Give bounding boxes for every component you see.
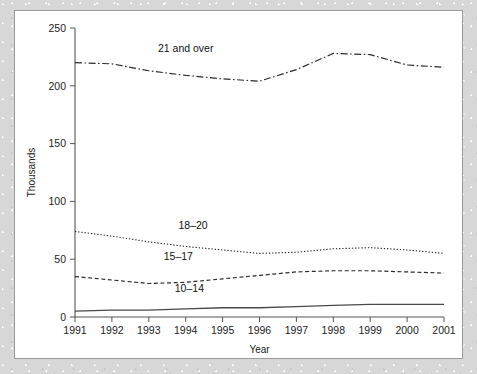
y-axis-ticks: 050100150200250 [48,22,75,323]
x-tick-label: 1999 [359,324,383,336]
series-line-21-and-over [75,53,444,81]
line-chart: 050100150200250 199119921993199419951996… [15,11,464,360]
y-axis-title: Thousands [26,148,37,197]
x-axis-ticks: 1991199219931994199519961997199819992000… [63,317,456,336]
x-tick-label: 1991 [63,324,87,336]
x-tick-label: 1997 [285,324,309,336]
series-label-18-20: 18–20 [178,219,207,231]
x-tick-label: 1993 [137,324,161,336]
series-lines [75,53,444,311]
series-label-10-14: 10–14 [175,282,204,294]
chart-panel: 050100150200250 199119921993199419951996… [14,10,463,359]
series-line-18-20 [75,231,444,253]
y-tick-label: 150 [48,137,66,149]
x-axis-title: Year [249,344,270,355]
x-tick-label: 2000 [395,324,419,336]
series-inline-labels: 21 and over18–2015–1710–14 [158,42,214,293]
series-label-15-17: 15–17 [164,250,193,262]
series-label-21-and-over: 21 and over [158,42,214,54]
x-tick-label: 1998 [322,324,346,336]
y-tick-label: 200 [48,80,66,92]
x-tick-label: 1996 [248,324,272,336]
y-tick-label: 100 [48,195,66,207]
x-tick-label: 2001 [432,324,456,336]
series-line-15-17 [75,271,444,284]
series-line-10-14 [75,304,444,311]
y-tick-label: 0 [60,311,66,323]
y-tick-label: 250 [48,22,66,34]
chart-plot-area: 050100150200250 199119921993199419951996… [15,11,464,360]
x-tick-label: 1992 [100,324,124,336]
x-tick-label: 1994 [174,324,198,336]
page-background: 050100150200250 199119921993199419951996… [0,0,477,374]
y-tick-label: 50 [54,253,66,265]
x-tick-label: 1995 [211,324,235,336]
